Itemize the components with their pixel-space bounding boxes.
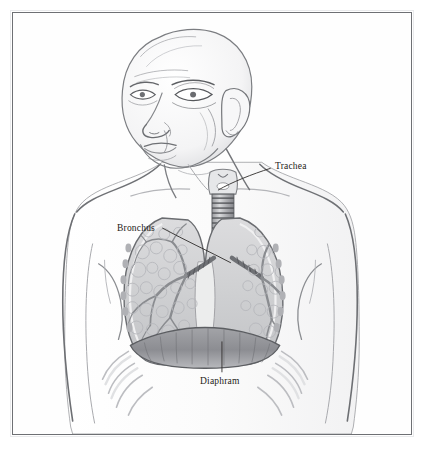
pupil-left	[140, 92, 145, 97]
figure-frame: Trachea Bronchus Diaphram	[12, 12, 412, 435]
larynx-opening	[217, 183, 229, 190]
pupil-right	[190, 92, 196, 98]
label-diaphram: Diaphram	[200, 377, 240, 387]
mediastinum	[195, 262, 215, 338]
label-bronchus: Bronchus	[117, 224, 155, 234]
label-trachea: Trachea	[275, 162, 307, 172]
ear	[222, 89, 250, 137]
anatomy-illustration	[13, 13, 411, 434]
illustration-page: Trachea Bronchus Diaphram	[0, 0, 426, 449]
larynx	[209, 169, 238, 194]
